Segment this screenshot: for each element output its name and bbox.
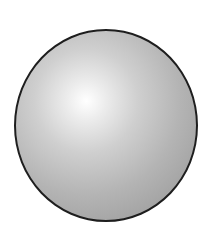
canvas [0, 0, 221, 243]
shaded-sphere [14, 29, 198, 222]
